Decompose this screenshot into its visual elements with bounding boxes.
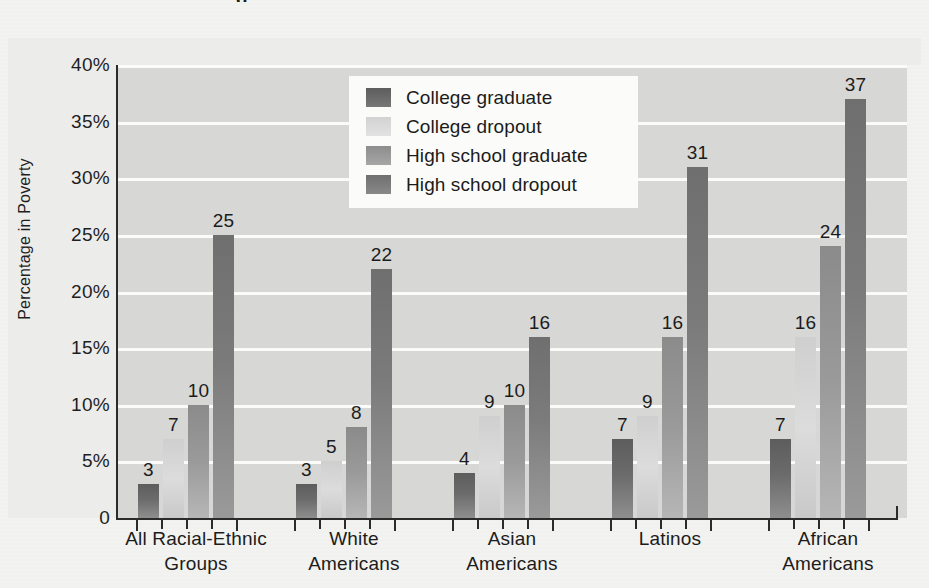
- bar-value-label: 8: [351, 402, 362, 424]
- bar-value-label: 9: [484, 391, 495, 413]
- x-category-label: AfricanAmericans: [749, 526, 907, 576]
- x-tick: [236, 518, 238, 531]
- legend-label: College dropout: [406, 116, 542, 138]
- bar-value-label: 7: [617, 414, 628, 436]
- x-tick: [161, 518, 163, 529]
- legend-item: College graduate: [366, 83, 638, 112]
- bar: 16: [529, 337, 550, 518]
- bar-value-label: 16: [795, 312, 817, 334]
- x-tick: [710, 518, 712, 531]
- bar: 22: [371, 269, 392, 518]
- bar-fill: [138, 484, 159, 518]
- x-tick: [685, 518, 687, 529]
- bar-value-label: 25: [213, 210, 235, 232]
- x-tick: [502, 518, 504, 529]
- y-tick-label: 30%: [44, 167, 110, 189]
- bar: 16: [795, 337, 816, 518]
- x-category-label: AsianAmericans: [433, 526, 591, 576]
- x-category-label-line: Asian: [433, 526, 591, 551]
- y-tick-label: 25%: [44, 224, 110, 246]
- bar-value-label: 16: [529, 312, 551, 334]
- x-category-label-line: White: [275, 526, 433, 551]
- bar: 7: [163, 439, 184, 518]
- bar: 8: [346, 427, 367, 518]
- x-category-label: Latinos: [591, 526, 749, 551]
- x-tick: [660, 518, 662, 529]
- bar: 31: [687, 167, 708, 518]
- legend-item: High school dropout: [366, 170, 638, 199]
- bar: 3: [296, 484, 317, 518]
- bar: 10: [188, 405, 209, 518]
- x-axis-line: [116, 518, 898, 520]
- y-tick-label: 15%: [44, 337, 110, 359]
- x-tick: [793, 518, 795, 529]
- bar-fill: [529, 337, 550, 518]
- x-category-label-line: Americans: [749, 551, 907, 576]
- x-tick: [369, 518, 371, 529]
- bar-value-label: 10: [504, 380, 526, 402]
- x-tick: [635, 518, 637, 529]
- x-category-label-line: African: [749, 526, 907, 551]
- bar-value-label: 10: [188, 380, 210, 402]
- bar-fill: [479, 416, 500, 518]
- bar-fill: [662, 337, 683, 518]
- bar-value-label: 7: [775, 414, 786, 436]
- bar-value-label: 7: [168, 414, 179, 436]
- x-tick: [818, 518, 820, 529]
- x-tick: [610, 518, 612, 531]
- x-tick: [186, 518, 188, 529]
- x-tick: [452, 518, 454, 531]
- x-tick: [394, 518, 396, 531]
- x-category-label-line: Americans: [275, 551, 433, 576]
- legend-label: High school dropout: [406, 174, 577, 196]
- x-tick: [344, 518, 346, 529]
- y-tick-label: 20%: [44, 281, 110, 303]
- y-tick-label: 10%: [44, 394, 110, 416]
- bar-value-label: 22: [371, 244, 393, 266]
- bar-fill: [371, 269, 392, 518]
- bar-fill: [346, 427, 367, 518]
- x-tick: [868, 518, 870, 531]
- legend-label: High school graduate: [406, 145, 588, 167]
- x-category-label: All Racial-EthnicGroups: [117, 526, 275, 576]
- bar: 9: [637, 416, 658, 518]
- x-tick: [843, 518, 845, 529]
- bar-value-label: 9: [642, 391, 653, 413]
- poverty-by-education-bar-chart: 371025358224910167916317162437 40%35%30%…: [8, 18, 921, 538]
- y-tick-label: 0: [44, 507, 110, 529]
- bar: 25: [213, 235, 234, 518]
- bar-fill: [612, 439, 633, 518]
- bar-fill: [637, 416, 658, 518]
- bar-fill: [321, 461, 342, 518]
- chart-legend: College graduate College dropout High sc…: [349, 76, 638, 208]
- bar-value-label: 16: [662, 312, 684, 334]
- bar: 9: [479, 416, 500, 518]
- legend-item: High school graduate: [366, 141, 638, 170]
- bar-fill: [188, 405, 209, 518]
- x-category-label-line: Latinos: [591, 526, 749, 551]
- bar-fill: [687, 167, 708, 518]
- bar-fill: [213, 235, 234, 518]
- legend-label: College graduate: [406, 87, 552, 109]
- bar-value-label: 5: [326, 436, 337, 458]
- x-tick: [477, 518, 479, 529]
- chart-page: g 371025358224910167916317162437 40%35%3…: [0, 0, 929, 588]
- x-tick: [319, 518, 321, 529]
- bar-fill: [163, 439, 184, 518]
- y-axis-line: [116, 65, 118, 520]
- bar-fill: [504, 405, 525, 518]
- x-category-label-line: Americans: [433, 551, 591, 576]
- bar: 5: [321, 461, 342, 518]
- bar: 4: [454, 473, 475, 518]
- bar-value-label: 37: [845, 74, 867, 96]
- x-category-label-line: Groups: [117, 551, 275, 576]
- bar-fill: [820, 246, 841, 518]
- bar: 3: [138, 484, 159, 518]
- bar-fill: [296, 484, 317, 518]
- bar: 7: [612, 439, 633, 518]
- x-tick: [294, 518, 296, 531]
- bar: 10: [504, 405, 525, 518]
- y-axis-tick-labels: 40%35%30%25%20%15%10%5%0: [38, 65, 110, 518]
- bar-value-label: 4: [459, 448, 470, 470]
- x-tick: [552, 518, 554, 531]
